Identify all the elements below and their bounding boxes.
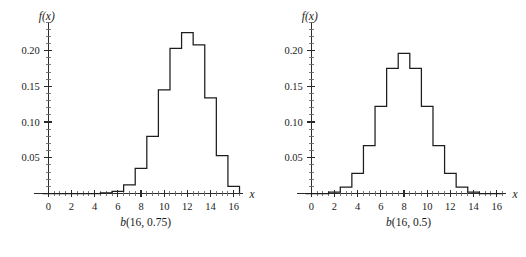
- y-tick-label: 0.05: [21, 152, 39, 163]
- y-axis-label: f(x): [302, 10, 318, 23]
- binomial-histogram-left: 0.050.100.150.200246810121416f(x)xb(16, …: [0, 0, 263, 257]
- panel-caption: b(16, 0.75): [120, 216, 171, 229]
- x-tick-label: 12: [445, 201, 456, 212]
- x-tick-label: 6: [378, 201, 383, 212]
- caption-parameters: (16, 0.5): [392, 216, 431, 229]
- chart-panel-left: 0.050.100.150.200246810121416f(x)xb(16, …: [0, 0, 263, 257]
- x-tick-label: 14: [468, 201, 479, 212]
- y-tick-label: 0.10: [284, 117, 302, 128]
- y-tick-label: 0.05: [284, 152, 302, 163]
- x-tick-label: 6: [115, 201, 120, 212]
- x-tick-label: 2: [332, 201, 337, 212]
- x-tick-label: 4: [92, 201, 98, 212]
- x-tick-label: 12: [182, 201, 193, 212]
- y-tick-label: 0.15: [21, 81, 39, 92]
- binomial-pmf-figure: 0.050.100.150.200246810121416f(x)xb(16, …: [0, 0, 526, 257]
- y-tick-label: 0.10: [21, 117, 39, 128]
- x-axis-label: x: [249, 188, 256, 200]
- x-tick-label: 14: [205, 201, 216, 212]
- x-tick-label: 2: [69, 201, 74, 212]
- x-tick-label: 10: [159, 201, 170, 212]
- histogram-bars: [43, 33, 240, 194]
- x-tick-label: 10: [422, 201, 433, 212]
- x-tick-label: 16: [491, 201, 502, 212]
- x-axis-label: x: [512, 188, 519, 200]
- x-tick-label: 0: [46, 201, 51, 212]
- x-tick-label: 8: [138, 201, 143, 212]
- y-tick-label: 0.20: [284, 45, 302, 56]
- x-tick-label: 8: [401, 201, 406, 212]
- y-tick-label: 0.20: [21, 45, 39, 56]
- chart-panel-right: 0.050.100.150.200246810121416f(x)xb(16, …: [263, 0, 526, 257]
- panel-caption: b(16, 0.5): [386, 216, 431, 229]
- caption-parameters: (16, 0.75): [126, 216, 171, 229]
- histogram-bars: [306, 53, 503, 193]
- x-tick-label: 16: [228, 201, 239, 212]
- binomial-histogram-right: 0.050.100.150.200246810121416f(x)xb(16, …: [263, 0, 526, 257]
- y-axis-label: f(x): [39, 10, 55, 23]
- y-tick-label: 0.15: [284, 81, 302, 92]
- axes-group: 0.050.100.150.200246810121416: [21, 22, 243, 212]
- x-tick-label: 0: [309, 201, 314, 212]
- axes-group: 0.050.100.150.200246810121416: [284, 22, 506, 212]
- x-tick-label: 4: [355, 201, 361, 212]
